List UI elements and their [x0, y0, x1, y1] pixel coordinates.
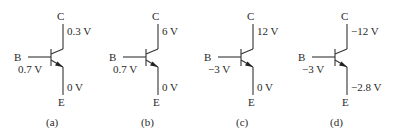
emitter-voltage: 0 V	[67, 81, 83, 93]
emitter-label: E	[153, 96, 160, 108]
collector-label: C	[152, 10, 159, 22]
transistor-d: C −12 V B −3 V −2.8 V E (d)	[298, 10, 382, 129]
transistor-c: C 12 V B −3 V 0 V E (c)	[204, 10, 279, 129]
emitter-voltage: 0 V	[257, 81, 273, 93]
emitter-arrow-icon	[55, 62, 63, 68]
emitter-label: E	[248, 96, 255, 108]
transistor-b: C 6 V B 0.7 V 0 V E (b)	[109, 10, 178, 129]
emitter-label: E	[342, 96, 349, 108]
collector-diagonal	[335, 49, 347, 54]
npn-transistor-icon	[312, 24, 347, 95]
collector-diagonal	[51, 49, 63, 54]
collector-label: C	[341, 10, 348, 22]
base-label: B	[14, 51, 21, 63]
emitter-voltage: −2.8 V	[351, 81, 382, 93]
collector-voltage: 0.3 V	[67, 25, 91, 37]
figure-caption: (d)	[330, 116, 343, 129]
collector-voltage: 12 V	[257, 25, 279, 37]
npn-transistor-icon	[28, 24, 63, 95]
emitter-arrow-icon	[245, 62, 253, 68]
figure-caption: (a)	[46, 116, 59, 129]
base-label: B	[109, 51, 116, 63]
collector-diagonal	[146, 49, 158, 54]
collector-label: C	[247, 10, 254, 22]
emitter-arrow-icon	[339, 62, 347, 68]
npn-transistor-icon	[218, 24, 253, 95]
base-voltage: 0.7 V	[18, 63, 42, 75]
npn-transistor-icon	[123, 24, 158, 95]
base-voltage: −3 V	[208, 63, 230, 75]
base-label: B	[204, 51, 211, 63]
base-label: B	[298, 51, 305, 63]
collector-label: C	[57, 10, 64, 22]
base-voltage: −3 V	[302, 63, 324, 75]
collector-voltage: 6 V	[162, 25, 178, 37]
transistor-figure: C 0.3 V B 0.7 V 0 V E (a) C 6 V B 0.7 V …	[0, 0, 399, 136]
figure-caption: (b)	[141, 116, 154, 129]
base-voltage: 0.7 V	[113, 63, 137, 75]
emitter-arrow-icon	[150, 62, 158, 68]
transistor-a: C 0.3 V B 0.7 V 0 V E (a)	[14, 10, 91, 129]
figure-caption: (c)	[236, 116, 249, 129]
collector-diagonal	[241, 49, 253, 54]
emitter-voltage: 0 V	[162, 81, 178, 93]
collector-voltage: −12 V	[351, 25, 379, 37]
emitter-label: E	[58, 96, 65, 108]
